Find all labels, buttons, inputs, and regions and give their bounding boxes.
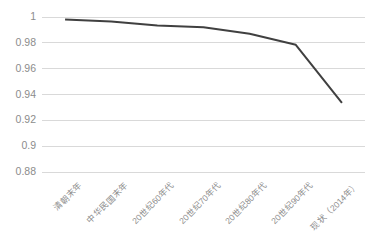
line-chart: 10.980.960.940.920.90.88 清朝末年中华民国末年20世纪6… (0, 0, 378, 251)
y-axis-tick-label: 0.88 (16, 166, 36, 177)
series-line (65, 20, 342, 103)
y-axis-tick-label: 0.9 (21, 140, 36, 151)
y-axis-tick-label: 0.92 (16, 114, 36, 125)
y-axis-tick-label: 0.96 (16, 63, 36, 74)
y-axis-tick-label: 0.98 (16, 37, 36, 48)
y-axis-tick-label: 0.94 (16, 89, 36, 100)
y-axis-tick-label: 1 (30, 11, 36, 22)
